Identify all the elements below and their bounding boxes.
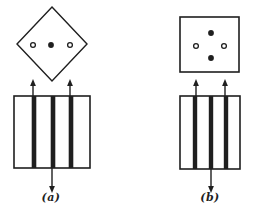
up-arrow-head — [193, 79, 199, 86]
diffraction-spot-open — [68, 43, 73, 48]
screen-square — [180, 17, 239, 72]
up-arrow-head — [67, 79, 73, 86]
figure-canvas: (a) (b) — [0, 0, 254, 214]
grating-bar — [69, 96, 74, 168]
diagram-layer — [0, 0, 254, 214]
grating-bar — [32, 96, 37, 168]
grating-bar — [224, 96, 228, 169]
diffraction-spot-open — [194, 44, 199, 49]
up-arrow-head — [30, 79, 36, 86]
up-arrow-head — [222, 79, 228, 86]
grating-bar — [209, 96, 213, 169]
grating-bar — [51, 96, 56, 168]
panel-b-label: (b) — [200, 191, 220, 204]
grating-bar — [193, 96, 197, 169]
diffraction-spot-open — [222, 44, 227, 49]
diffraction-spot-filled — [48, 42, 54, 48]
diffraction-spot-filled — [208, 55, 214, 61]
diffraction-spot-open — [31, 43, 36, 48]
diffraction-spot-filled — [208, 30, 214, 36]
panel-a-label: (a) — [41, 191, 60, 204]
